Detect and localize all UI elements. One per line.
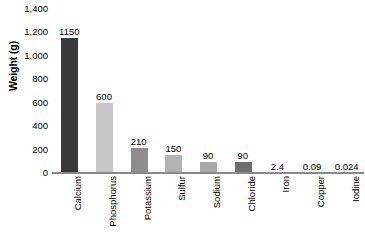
y-axis-tick-label: 600	[14, 98, 48, 108]
x-axis-line	[52, 172, 364, 174]
y-axis-tick-label: 1,200	[14, 27, 48, 37]
x-axis-label-slot: Sodium	[192, 176, 224, 240]
x-axis-tick-label: Calcium	[73, 176, 83, 210]
x-axis-tick-label: Sodium	[212, 176, 222, 208]
bar-group: 600	[88, 9, 120, 173]
y-axis-tick-label: 200	[14, 145, 48, 155]
x-axis-tick-label: Iodine	[351, 176, 361, 202]
bar-chart: Weight (g) 1,4001,2001,0008006004002000 …	[0, 0, 365, 240]
bar[interactable]	[96, 103, 113, 173]
bar-value-label: 600	[80, 92, 128, 102]
bar-value-label: 1150	[45, 27, 93, 37]
x-axis-label-slot: Copper	[296, 176, 328, 240]
bar-group: 150	[157, 9, 189, 173]
y-axis-tick-label: 800	[14, 74, 48, 84]
x-axis-label-slot: Calcium	[53, 176, 85, 240]
bar[interactable]	[131, 148, 148, 173]
plot-area: 115060021015090902.40.090.024	[52, 9, 364, 173]
x-axis-label-slot: Sulfur	[157, 176, 189, 240]
x-axis-label-slot: Potassium	[123, 176, 155, 240]
bar-group: 2.4	[261, 9, 293, 173]
y-axis-tick-label: 0	[14, 168, 48, 178]
bar[interactable]	[61, 38, 78, 173]
x-axis-label-slot: Chloride	[227, 176, 259, 240]
x-axis-label-slot: Phosphorus	[88, 176, 120, 240]
x-axis-label-slot: Iron	[261, 176, 293, 240]
bar-group: 90	[227, 9, 259, 173]
x-axis-tick-label: Copper	[316, 176, 326, 207]
bar-group: 90	[192, 9, 224, 173]
bar-group: 0.024	[331, 9, 363, 173]
x-axis-tick-label: Potassium	[143, 176, 153, 220]
x-axis-tick-labels: CalciumPhosphorusPotassiumSulfurSodiumCh…	[52, 176, 364, 240]
bar-value-label: 90	[219, 151, 267, 161]
x-axis-label-slot: Iodine	[331, 176, 363, 240]
bar-group: 0.09	[296, 9, 328, 173]
bar-value-label: 0.024	[323, 162, 365, 172]
y-axis-tick-label: 400	[14, 121, 48, 131]
bar[interactable]	[165, 155, 182, 173]
y-axis-tick-label: 1,000	[14, 51, 48, 61]
x-axis-tick-label: Chloride	[247, 176, 257, 211]
y-axis-tick-label: 1,400	[14, 4, 48, 14]
x-axis-tick-label: Phosphorus	[108, 176, 118, 227]
y-axis-tick-labels: 1,4001,2001,0008006004002000	[14, 0, 48, 240]
x-axis-tick-label: Sulfur	[177, 176, 187, 201]
x-axis-tick-label: Iron	[281, 176, 291, 192]
